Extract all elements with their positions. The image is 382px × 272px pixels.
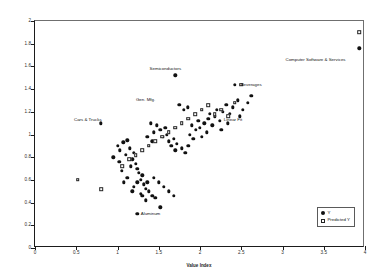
data-point	[155, 124, 158, 127]
data-point	[241, 108, 244, 111]
data-point	[124, 153, 127, 156]
data-point	[200, 135, 203, 138]
predicted-point	[213, 112, 217, 116]
x-tick-label: 2	[199, 251, 202, 256]
data-point	[186, 106, 189, 109]
y-tick-label: 1	[28, 132, 31, 137]
y-tick-label: 0.2	[25, 223, 31, 228]
data-point	[139, 178, 142, 181]
data-point	[112, 155, 115, 158]
legend-item[interactable]: Y	[321, 210, 350, 216]
data-point	[172, 137, 175, 140]
data-point	[136, 180, 139, 183]
y-tick	[31, 66, 35, 67]
data-point	[208, 112, 211, 115]
data-point	[183, 151, 186, 154]
legend-label: Y	[327, 211, 330, 215]
data-point	[174, 74, 177, 77]
data-point	[118, 149, 121, 152]
data-point	[128, 146, 131, 149]
predicted-point	[206, 103, 210, 107]
data-point	[145, 180, 148, 183]
predicted-point	[134, 153, 138, 157]
series-annotation: Computer Software & Services	[285, 57, 345, 61]
data-point	[141, 174, 144, 177]
data-point	[188, 133, 191, 136]
predicted-point	[99, 187, 103, 191]
data-point	[147, 190, 150, 193]
data-point	[167, 140, 170, 143]
data-point	[131, 190, 134, 193]
y-tick-label: 1.2	[25, 110, 31, 115]
legend-label: Predicted Y	[327, 218, 350, 222]
data-point	[159, 205, 162, 208]
predicted-point	[140, 149, 144, 153]
series-annotation: Beverages	[241, 82, 262, 86]
data-point	[174, 149, 177, 152]
data-point	[134, 162, 137, 165]
legend-item[interactable]: Predicted Y	[321, 218, 350, 224]
data-point	[159, 128, 162, 131]
data-point	[164, 126, 167, 129]
data-point	[175, 142, 178, 145]
data-point	[215, 108, 218, 111]
predicted-point	[357, 31, 361, 35]
data-point	[172, 194, 175, 197]
data-point	[226, 121, 229, 124]
data-point	[211, 124, 214, 127]
plot-area: 00.20.40.60.811.21.41.61.82 00.511.522.5…	[34, 20, 364, 247]
series-annotation: Cars & Trucks	[74, 118, 102, 122]
x-tick-label: 1	[116, 251, 119, 256]
x-tick-label: 3.5	[321, 251, 327, 256]
data-point	[205, 131, 208, 134]
y-tick-label: 1.4	[25, 87, 31, 92]
data-point	[136, 212, 139, 215]
data-point	[236, 99, 239, 102]
series-annotation: Aluminum	[141, 212, 161, 216]
y-tick	[31, 225, 35, 226]
predicted-point	[220, 108, 224, 112]
data-point	[169, 144, 172, 147]
y-tick-label: 1.6	[25, 64, 31, 69]
data-point	[225, 103, 228, 106]
chart-legend: YPredicted Y	[317, 207, 355, 228]
y-tick-label: 0.6	[25, 178, 31, 183]
data-point	[187, 144, 190, 147]
predicted-point	[127, 158, 131, 162]
x-tick-label: 0.5	[73, 251, 79, 256]
chart-canvas: Profitability Index Ratio (ROCC/CC) Valu…	[0, 0, 382, 272]
open-square-icon	[321, 219, 325, 223]
y-tick	[31, 44, 35, 45]
data-point	[122, 141, 125, 144]
y-tick-label: 0.8	[25, 155, 31, 160]
data-point	[136, 167, 139, 170]
y-tick-label: 0.4	[25, 200, 31, 205]
data-point	[207, 117, 210, 120]
data-point	[145, 135, 148, 138]
data-point	[167, 190, 170, 193]
predicted-point	[121, 164, 125, 168]
data-point	[246, 101, 249, 104]
predicted-point	[76, 178, 80, 182]
series-annotation: Semiconductors	[150, 66, 181, 70]
filled-diamond-icon	[321, 211, 325, 215]
data-point	[149, 121, 152, 124]
data-point	[192, 137, 195, 140]
predicted-point	[160, 135, 164, 139]
data-point	[126, 138, 129, 141]
x-tick-label: 4	[364, 251, 367, 256]
y-tick	[31, 89, 35, 90]
predicted-point	[187, 117, 191, 121]
y-tick-label: 1.8	[25, 41, 31, 46]
data-point	[144, 199, 147, 202]
data-point	[249, 94, 252, 97]
predicted-point	[154, 140, 158, 144]
x-tick-label: 3	[281, 251, 284, 256]
data-point	[233, 83, 236, 86]
data-point	[220, 128, 223, 131]
y-tick	[31, 112, 35, 113]
data-point	[117, 160, 120, 163]
predicted-point	[200, 108, 204, 112]
data-point	[131, 158, 134, 161]
data-point	[178, 103, 181, 106]
